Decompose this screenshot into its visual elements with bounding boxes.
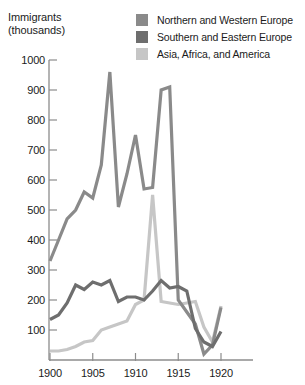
y-tick-label: 600 bbox=[27, 174, 45, 186]
data-series-group bbox=[50, 72, 221, 354]
x-axis-tick-labels: 19001905191019151920 bbox=[38, 367, 233, 379]
series-line-northern-and-western-europe bbox=[50, 72, 221, 354]
y-tick-label: 900 bbox=[27, 84, 45, 96]
series-line-southern-and-eastern-europe bbox=[50, 281, 221, 347]
x-tick-label: 1905 bbox=[81, 367, 105, 379]
x-tick-label: 1915 bbox=[166, 367, 190, 379]
x-tick-label: 1920 bbox=[209, 367, 233, 379]
x-tick-label: 1900 bbox=[38, 367, 62, 379]
y-tick-label: 100 bbox=[27, 324, 45, 336]
x-tick-label: 1910 bbox=[124, 367, 148, 379]
plot-area: 1002003004005006007008009001000 19001905… bbox=[0, 0, 305, 385]
immigration-line-chart: Immigrants (thousands) Northern and West… bbox=[0, 0, 305, 385]
y-tick-label: 200 bbox=[27, 294, 45, 306]
y-tick-label: 400 bbox=[27, 234, 45, 246]
y-tick-label: 700 bbox=[27, 144, 45, 156]
y-tick-label: 300 bbox=[27, 264, 45, 276]
y-axis-tick-marks bbox=[49, 60, 57, 330]
y-tick-label: 500 bbox=[27, 204, 45, 216]
y-tick-label: 800 bbox=[27, 114, 45, 126]
y-axis-tick-labels: 1002003004005006007008009001000 bbox=[21, 54, 45, 336]
y-tick-label: 1000 bbox=[21, 54, 45, 66]
